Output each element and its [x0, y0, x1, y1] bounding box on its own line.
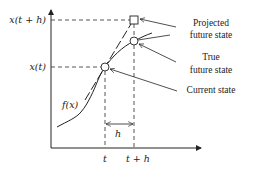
leader-projected: [140, 19, 176, 27]
guide-lines: [51, 20, 134, 148]
current-state-marker: [101, 63, 109, 71]
function-curve: [57, 33, 152, 127]
label-projected-line2: future state: [190, 30, 232, 40]
leader-true: [139, 44, 176, 62]
label-true-line2: future state: [190, 65, 232, 75]
label-projected-line1: Projected: [193, 18, 229, 28]
leader-true-upper: [138, 35, 170, 40]
true-state-marker: [130, 37, 138, 45]
euler-projection-diagram: x(t + h) x(t) t t + h f(x) h Projected f…: [0, 0, 253, 170]
axes: [51, 10, 201, 148]
leader-current: [110, 69, 177, 91]
tangent-line: [85, 24, 131, 100]
y-label-x-t-plus-h: x(t + h): [9, 14, 46, 25]
label-current: Current state: [187, 85, 236, 95]
y-label-x-t: x(t): [29, 61, 46, 72]
x-label-t-plus-h: t + h: [126, 153, 150, 164]
x-label-t: t: [103, 153, 107, 164]
projected-state-marker: [130, 16, 138, 24]
label-true-line1: True: [202, 52, 220, 62]
interval-label: h: [115, 128, 121, 139]
curve-label: f(x): [61, 99, 79, 110]
